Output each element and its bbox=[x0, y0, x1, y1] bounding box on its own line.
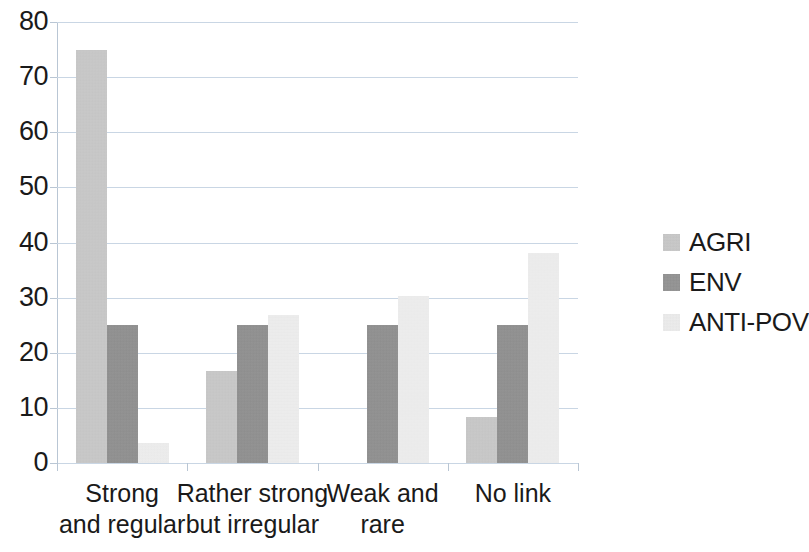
y-axis-tick-mark bbox=[50, 463, 57, 464]
legend-item-env[interactable]: ENV bbox=[663, 262, 809, 302]
x-axis-category-labels: Strongand regularRather strongbut irregu… bbox=[57, 478, 578, 552]
legend-item-anti-pov[interactable]: ANTI-POV bbox=[663, 302, 809, 342]
chart-legend: AGRIENVANTI-POV bbox=[663, 222, 809, 342]
bar-agri-1 bbox=[206, 371, 237, 463]
category-label-line2: rare bbox=[303, 509, 463, 540]
x-axis-tick-mark bbox=[57, 463, 58, 471]
y-axis-tick-mark bbox=[50, 132, 57, 133]
y-axis-tick-label: 70 bbox=[4, 63, 48, 90]
y-axis-tick-label: 50 bbox=[4, 173, 48, 200]
legend-swatch-icon bbox=[663, 314, 680, 331]
y-axis-tick-label: 60 bbox=[4, 118, 48, 145]
bar-env-3 bbox=[497, 325, 528, 463]
y-axis-tick-mark bbox=[50, 353, 57, 354]
bar-anti-pov-1 bbox=[268, 315, 299, 463]
x-axis-tick-mark bbox=[318, 463, 319, 471]
bar-anti-pov-0 bbox=[138, 443, 169, 463]
bar-chart: 01020304050607080 Strongand regularRathe… bbox=[0, 0, 809, 552]
legend-label: ANTI-POV bbox=[689, 309, 809, 335]
category-label-line1: No link bbox=[433, 478, 593, 509]
y-axis-tick-mark bbox=[50, 408, 57, 409]
y-axis-tick-label: 0 bbox=[4, 449, 48, 476]
gridline bbox=[57, 132, 578, 133]
y-axis-tick-label: 20 bbox=[4, 339, 48, 366]
bar-env-2 bbox=[367, 325, 398, 463]
plot-area bbox=[57, 22, 578, 463]
x-axis-tick-mark bbox=[187, 463, 188, 471]
legend-item-agri[interactable]: AGRI bbox=[663, 222, 809, 262]
y-axis-tick-label: 30 bbox=[4, 284, 48, 311]
y-axis-tick-mark bbox=[50, 298, 57, 299]
bar-agri-0 bbox=[76, 50, 107, 463]
y-axis-tick-mark bbox=[50, 187, 57, 188]
y-axis-tick-mark bbox=[50, 77, 57, 78]
bar-agri-3 bbox=[466, 417, 497, 463]
gridline bbox=[57, 243, 578, 244]
bar-anti-pov-3 bbox=[528, 253, 559, 463]
gridline bbox=[57, 298, 578, 299]
legend-swatch-icon bbox=[663, 234, 680, 251]
bar-env-0 bbox=[107, 325, 138, 463]
y-axis-tick-label: 80 bbox=[4, 8, 48, 35]
y-axis-tick-label: 40 bbox=[4, 229, 48, 256]
x-axis-category-label: No link bbox=[433, 478, 593, 509]
y-axis-tick-labels: 01020304050607080 bbox=[0, 0, 48, 552]
x-axis-tick-mark bbox=[448, 463, 449, 471]
x-axis-tick-mark bbox=[578, 463, 579, 471]
y-axis-tick-label: 10 bbox=[4, 394, 48, 421]
bar-env-1 bbox=[237, 325, 268, 463]
y-axis-tick-mark bbox=[50, 243, 57, 244]
legend-label: ENV bbox=[689, 269, 741, 295]
legend-label: AGRI bbox=[689, 229, 751, 255]
y-axis-tick-mark bbox=[50, 22, 57, 23]
gridline bbox=[57, 187, 578, 188]
gridline bbox=[57, 22, 578, 23]
gridline bbox=[57, 77, 578, 78]
legend-swatch-icon bbox=[663, 274, 680, 291]
bar-anti-pov-2 bbox=[398, 296, 429, 463]
